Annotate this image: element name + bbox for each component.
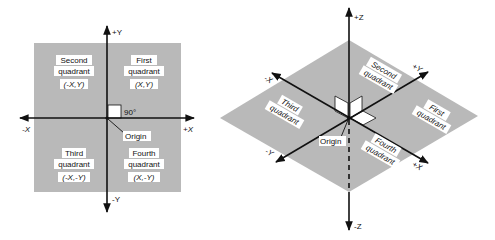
pos-z-label: +Z (354, 13, 364, 22)
cartesian-2d-diagram: 90° +Y -Y -X +X Origin Second quadrant (… (20, 26, 194, 212)
pos-x-label-3d: +X (411, 160, 425, 173)
svg-text:First: First (136, 56, 152, 65)
quadrant-fourth-2d: Fourth quadrant (X,-Y) (124, 148, 164, 182)
svg-text:Third: Third (65, 149, 83, 158)
pos-y-label-3d: +Y (411, 62, 425, 75)
origin-point-3d (347, 116, 351, 120)
coordinate-systems-figure: 90° +Y -Y -X +X Origin Second quadrant (… (0, 0, 495, 240)
svg-text:(X,Y): (X,Y) (135, 80, 154, 89)
quadrant-second-2d: Second quadrant (-X,Y) (54, 55, 94, 89)
neg-x-label-3d: -X (263, 74, 275, 86)
svg-text:Second: Second (60, 56, 87, 65)
neg-z-label: -Z (354, 222, 362, 231)
right-angle-marker (108, 105, 121, 118)
svg-text:quadrant: quadrant (58, 67, 90, 76)
neg-x-label: -X (22, 125, 31, 134)
svg-text:quadrant: quadrant (58, 160, 90, 169)
svg-text:(X,-Y): (X,-Y) (134, 173, 155, 182)
right-angle-label: 90° (124, 108, 136, 117)
svg-text:(-X,-Y): (-X,-Y) (62, 173, 86, 182)
svg-text:quadrant: quadrant (128, 67, 160, 76)
cartesian-3d-diagram: +Z -Z -X +X +Y -Y Origin Second quadrant… (220, 8, 478, 231)
origin-label-2d: Origin (125, 132, 146, 141)
svg-text:Fourth: Fourth (132, 149, 155, 158)
svg-text:(-X,Y): (-X,Y) (64, 80, 85, 89)
svg-text:quadrant: quadrant (128, 160, 160, 169)
pos-y-label: +Y (112, 28, 123, 37)
origin-label-3d: Origin (320, 137, 341, 146)
pos-x-label: +X (183, 125, 194, 134)
neg-y-label: -Y (112, 195, 121, 204)
